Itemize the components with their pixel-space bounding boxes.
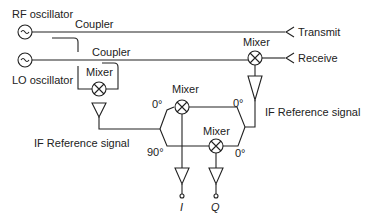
- hybrid-left-0: [160, 107, 174, 129]
- coupler-top-label: Coupler: [75, 18, 114, 30]
- phase-0-right-top-label: 0°: [233, 97, 244, 109]
- if-ref-right-label: IF Reference signal: [265, 106, 360, 118]
- rf-oscillator-icon: [18, 25, 32, 39]
- mixer-receive-icon: [248, 51, 262, 65]
- if-ref-left-label: IF Reference signal: [34, 137, 129, 149]
- phase-90-left-label: 90°: [147, 146, 164, 158]
- amplifier-receive-icon: [248, 76, 262, 100]
- transmit-port-icon: [286, 27, 294, 37]
- if-ref-left-wire: [99, 117, 160, 129]
- amplifier-i-icon: [175, 168, 189, 184]
- mixer-receive-label: Mixer: [243, 36, 270, 48]
- mixer-i-icon: [175, 100, 189, 114]
- iq-receiver-diagram: RF oscillator Transmit Coupler LO oscill…: [0, 0, 366, 223]
- hybrid-right-0-top: [232, 107, 255, 127]
- transmit-label: Transmit: [298, 26, 340, 38]
- amplifier-lo-icon: [92, 103, 106, 117]
- coupler-top: [52, 38, 78, 52]
- rf-oscillator-label: RF oscillator: [12, 8, 73, 20]
- coupler-bottom-label: Coupler: [92, 46, 131, 58]
- mixer-q-label: Mixer: [203, 125, 230, 137]
- mixer-lo-icon: [92, 82, 106, 96]
- mixer-q-icon: [209, 139, 223, 153]
- lo-oscillator-icon: [18, 53, 32, 67]
- output-q-terminal: [214, 194, 218, 198]
- mixer-i-label: Mixer: [172, 83, 199, 95]
- output-q-label: Q: [211, 201, 220, 213]
- phase-0-left-label: 0°: [152, 98, 163, 110]
- lo-oscillator-label: LO oscillator: [12, 74, 73, 86]
- receive-port-icon: [286, 53, 294, 63]
- output-i-label: I: [180, 201, 183, 213]
- hybrid-left-90: [160, 129, 209, 146]
- phase-0-right-bottom-label: 0°: [235, 147, 246, 159]
- output-i-terminal: [180, 194, 184, 198]
- receive-label: Receive: [298, 52, 338, 64]
- amplifier-q-icon: [209, 168, 223, 184]
- mixer-lo-label: Mixer: [86, 66, 113, 78]
